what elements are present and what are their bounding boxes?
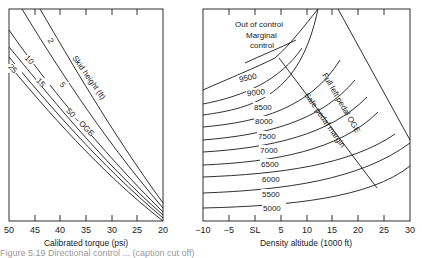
svg-text:5: 5 xyxy=(278,225,283,235)
svg-text:20: 20 xyxy=(353,225,363,235)
svg-text:35: 35 xyxy=(81,225,91,235)
skid-height-label: Skid height (ft) xyxy=(70,54,107,102)
svg-text:6500: 6500 xyxy=(261,160,279,169)
curve-9500 xyxy=(203,58,275,90)
marginal-label-1: Marginal xyxy=(246,31,277,40)
right-x-axis-label: Density altitude (1000 ft) xyxy=(260,238,352,248)
svg-text:6000: 6000 xyxy=(262,175,280,184)
svg-text:45: 45 xyxy=(30,225,40,235)
svg-text:−10: −10 xyxy=(195,225,210,235)
right-panel xyxy=(203,9,410,221)
marginal-label-2: control xyxy=(250,41,274,50)
svg-text:25: 25 xyxy=(379,225,389,235)
svg-text:SL: SL xyxy=(249,225,260,235)
curve-5000 xyxy=(203,166,410,208)
left-panel xyxy=(9,9,163,221)
svg-text:8000: 8000 xyxy=(255,117,273,126)
right-x-ticks: −10 −5 SL 5 10 15 20 25 30 xyxy=(195,225,415,235)
svg-text:8500: 8500 xyxy=(254,103,272,112)
svg-text:50: 50 xyxy=(4,225,14,235)
svg-text:15: 15 xyxy=(327,225,337,235)
svg-text:10: 10 xyxy=(302,225,312,235)
svg-text:9000: 9000 xyxy=(247,87,266,98)
right-annotations: Out of control Marginal control Full lef… xyxy=(235,20,362,149)
svg-text:7500: 7500 xyxy=(258,132,276,141)
svg-text:20: 20 xyxy=(158,225,168,235)
svg-text:7000: 7000 xyxy=(260,146,278,155)
curve-6000 xyxy=(203,134,395,177)
left-x-ticks: 50 45 40 35 30 25 20 xyxy=(4,225,168,235)
svg-text:40: 40 xyxy=(55,225,65,235)
out-of-control-label: Out of control xyxy=(235,20,283,29)
curve-5 xyxy=(22,9,163,208)
right-frame xyxy=(203,9,410,221)
left-labels: 2 5 10 15 25 50 – OGE Skid height (ft) xyxy=(6,36,107,138)
figure-caption: Figure 5.19 Directional control ... (cap… xyxy=(0,248,422,258)
svg-text:5000: 5000 xyxy=(263,204,281,213)
svg-text:25: 25 xyxy=(132,225,142,235)
left-x-axis-label: Calibrated torque (psi) xyxy=(44,238,128,248)
svg-text:5500: 5500 xyxy=(262,190,280,199)
svg-text:−5: −5 xyxy=(224,225,234,235)
svg-text:30: 30 xyxy=(405,225,415,235)
svg-text:30: 30 xyxy=(107,225,117,235)
